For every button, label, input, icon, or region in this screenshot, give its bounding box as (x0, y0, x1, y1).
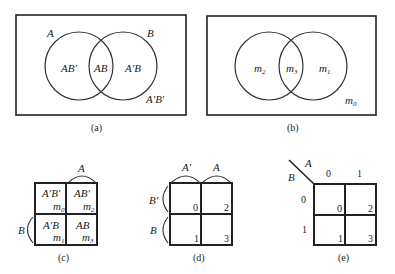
venn-diagram-b: m2 m3 m1 m0 (b) (207, 16, 376, 134)
row-value: 1 (302, 224, 307, 235)
col-value: 1 (357, 168, 362, 179)
cell-minterm: m0 (53, 200, 65, 214)
minterm-m3: m3 (286, 62, 298, 76)
row-label: B′ (149, 194, 159, 206)
caption-c: (c) (58, 252, 69, 264)
cell-index: 1 (194, 233, 199, 244)
minterm-m2: m2 (254, 62, 266, 76)
col-label-a: A (77, 162, 85, 174)
caption-a: (a) (91, 122, 102, 134)
row-label-b: B (18, 224, 25, 236)
cell-index: 2 (224, 202, 229, 213)
col-brace-a (69, 176, 95, 182)
corner-label-b: B (288, 171, 295, 183)
minterm-m1: m1 (319, 62, 330, 76)
cell-term: A′B′ (41, 187, 61, 199)
set-b-label: B (147, 27, 154, 39)
cell-minterm: m2 (83, 200, 95, 214)
cell-minterm: m1 (53, 231, 64, 245)
region-both: AB (93, 62, 108, 74)
row-brace-b-prime (163, 186, 168, 212)
col-value: 0 (326, 168, 331, 179)
cell-index: 1 (338, 233, 343, 244)
region-a-only: AB′ (60, 62, 77, 74)
caption-b: (b) (287, 122, 299, 134)
cell-index: 3 (368, 233, 373, 244)
row-value: 0 (301, 194, 306, 205)
cell-index: 2 (368, 203, 373, 214)
row-brace-b (28, 217, 34, 243)
set-a-label: A (46, 27, 54, 39)
caption-d: (d) (193, 252, 205, 264)
col-brace-a-prime (172, 176, 199, 182)
row-label: B (150, 224, 157, 236)
minterm-m0: m0 (345, 94, 357, 108)
region-b-only: A′B (124, 62, 141, 74)
corner-label-a: A (304, 157, 312, 169)
caption-e: (e) (338, 252, 349, 264)
cell-term: A′B (42, 219, 59, 231)
cell-term: AB (75, 219, 90, 231)
cell-minterm: m3 (82, 231, 94, 245)
row-brace-b (163, 217, 168, 243)
cell-term: AB′ (73, 187, 90, 199)
diagram-canvas: A B AB′ AB A′B A′B′ (a) m2 m3 m1 m0 (b) … (0, 0, 395, 274)
kmap-e: A B 0 1 0 1 0 2 1 3 (e) (288, 157, 376, 264)
venn-diagram-a: A B AB′ AB A′B A′B′ (a) (16, 15, 186, 134)
cell-index: 0 (337, 203, 342, 214)
region-outside: A′B′ (145, 93, 165, 105)
kmap-c: A B A′B′ m0 AB′ m2 A′B m1 AB m3 (c) (18, 162, 97, 264)
kmap-d: A′ A B′ B 0 2 1 3 (d) (149, 161, 232, 264)
col-label: A (212, 161, 220, 173)
cell-index: 0 (193, 202, 198, 213)
col-brace-a (203, 176, 230, 182)
col-label: A′ (181, 161, 192, 173)
cell-index: 3 (224, 233, 229, 244)
